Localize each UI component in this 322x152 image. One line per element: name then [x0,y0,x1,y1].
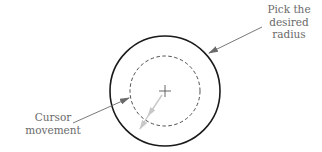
pick-radius-label: Pick the desired radius [256,3,322,41]
cursor-movement-label-line: Cursor [18,111,88,124]
pick-radius-leader-arrow [209,27,262,53]
cursor-movement-arrow [140,95,162,129]
cursor-movement-label-line: movement [18,124,88,137]
cursor-movement-label: Cursor movement [18,111,88,136]
center-crosshair-icon [159,85,171,97]
pick-radius-label-line: desired [256,16,322,29]
pick-radius-label-line: radius [256,28,322,41]
pick-radius-label-line: Pick the [256,3,322,16]
